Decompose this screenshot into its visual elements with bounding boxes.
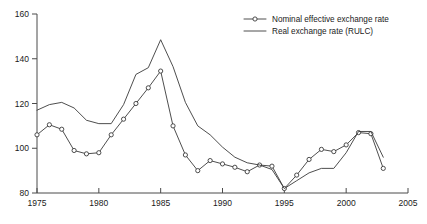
- series-marker: [208, 158, 212, 162]
- series-marker: [109, 133, 113, 137]
- series-marker: [344, 143, 348, 147]
- series-marker: [146, 86, 150, 90]
- x-tick-label: 1980: [89, 198, 108, 208]
- y-axis-ticks: 80100120140160: [15, 9, 37, 198]
- series-marker: [183, 153, 187, 157]
- series-line-0: [37, 71, 383, 188]
- x-tick-label: 2005: [399, 198, 418, 208]
- x-tick-label: 1995: [275, 198, 294, 208]
- y-tick-label: 160: [15, 9, 29, 19]
- series-marker: [270, 164, 274, 168]
- series-marker: [220, 162, 224, 166]
- series-marker: [72, 148, 76, 152]
- series-marker: [97, 151, 101, 155]
- legend-item-label: Nominal effective exchange rate: [272, 15, 389, 24]
- x-tick-label: 2000: [337, 198, 356, 208]
- series-marker: [381, 166, 385, 170]
- series-marker: [60, 127, 64, 131]
- series-line-1: [37, 40, 383, 189]
- series-marker: [35, 133, 39, 137]
- line-chart: 80100120140160 1975198019851990199520002…: [0, 0, 427, 224]
- series-marker: [233, 165, 237, 169]
- series-marker: [84, 152, 88, 156]
- series-marker: [134, 101, 138, 105]
- x-axis-ticks: 1975198019851990199520002005: [28, 188, 418, 208]
- x-tick-label: 1985: [151, 198, 170, 208]
- y-tick-label: 100: [15, 143, 29, 153]
- series-marker: [159, 69, 163, 73]
- y-tick-label: 80: [20, 188, 30, 198]
- series-layer: [35, 40, 385, 191]
- legend-item-label: Real exchange rate (RULC): [272, 27, 373, 36]
- series-marker: [196, 169, 200, 173]
- series-marker: [332, 150, 336, 154]
- series-marker: [295, 173, 299, 177]
- series-marker: [47, 123, 51, 127]
- y-tick-label: 140: [15, 54, 29, 64]
- series-marker: [171, 124, 175, 128]
- legend-swatch-marker: [253, 17, 257, 21]
- series-marker: [319, 147, 323, 151]
- x-tick-label: 1990: [213, 198, 232, 208]
- x-tick-label: 1975: [28, 198, 47, 208]
- chart-container: 80100120140160 1975198019851990199520002…: [0, 0, 427, 224]
- y-tick-label: 120: [15, 99, 29, 109]
- series-marker: [245, 170, 249, 174]
- chart-legend: Nominal effective exchange rateReal exch…: [244, 15, 389, 36]
- series-marker: [121, 117, 125, 121]
- series-marker: [307, 157, 311, 161]
